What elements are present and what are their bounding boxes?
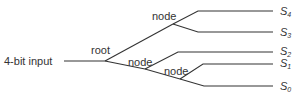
node2-label: node — [128, 56, 152, 68]
node3-label: node — [164, 65, 188, 77]
edge-s0 — [180, 79, 273, 86]
tree-diagram: 4-bit input root node node node S4 S3 S2… — [0, 0, 300, 98]
output-s3: S3 — [280, 26, 291, 39]
edge-s3 — [173, 24, 273, 32]
input-label: 4-bit input — [4, 55, 52, 67]
root-label: root — [91, 44, 110, 56]
output-s0: S0 — [280, 80, 291, 93]
edge-s4 — [173, 11, 273, 24]
output-s1: S1 — [280, 57, 291, 70]
edge-s1 — [180, 64, 273, 79]
node1-label: node — [152, 10, 176, 22]
output-s4: S4 — [280, 5, 291, 18]
